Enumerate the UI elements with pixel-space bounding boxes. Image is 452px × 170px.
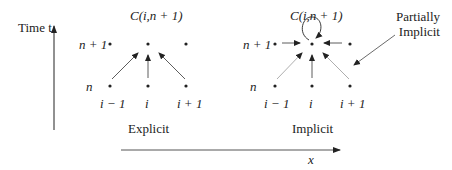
annotation-line-1: Partially [396,10,440,23]
implicit-title: C(i,n + 1) [290,9,342,22]
explicit-row-top-label: n + 1 [79,38,107,51]
partially-implicit-label: Partially Implicit [396,10,440,38]
implicit-arrows [277,17,349,79]
finite-difference-schemes-diagram: Time t x C(i,n + 1) n + 1 n i − 1 i i + … [0,0,452,170]
implicit-col-label-1: i [309,97,313,110]
implicit-grid-points [273,42,351,87]
implicit-col-label-2: i + 1 [340,97,365,110]
implicit-row-top-label: n + 1 [243,38,271,51]
explicit-col-label-2: i + 1 [177,97,202,110]
x-axis-label: x [308,153,314,166]
explicit-col-label-1: i [145,97,149,110]
explicit-caption: Explicit [128,122,169,135]
annotation-line-2: Implicit [396,25,440,38]
explicit-arrows [112,53,185,79]
implicit-col-label-0: i − 1 [264,97,289,110]
implicit-row-bottom-label: n [250,80,257,93]
explicit-title: C(i,n + 1) [130,9,182,22]
explicit-col-label-0: i − 1 [100,97,125,110]
implicit-caption: Implicit [292,122,333,135]
explicit-row-bottom-label: n [86,80,93,93]
diagram-graphics [0,0,452,170]
time-axis-label: Time t [18,21,52,34]
partially-implicit-pointer [354,35,395,65]
